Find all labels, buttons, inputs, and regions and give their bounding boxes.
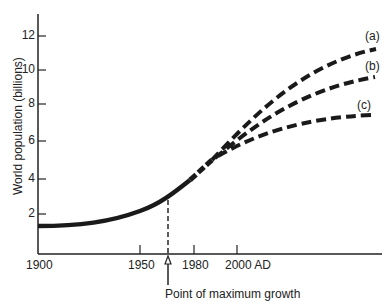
y-tick-6: 6 [15, 133, 35, 147]
y-tick-10: 10 [15, 62, 35, 76]
x-tick-1950: 1950 [128, 258, 155, 272]
y-ticks [38, 36, 46, 214]
y-tick-4: 4 [15, 171, 35, 185]
x-tick-1980: 1980 [182, 258, 209, 272]
y-tick-8: 8 [15, 96, 35, 110]
y-tick-12: 12 [15, 28, 35, 42]
x-ticks [140, 245, 237, 254]
arrow-head-icon [165, 256, 171, 264]
series-transition [190, 160, 212, 180]
series-historical [38, 180, 190, 226]
series-a-label: (a) [365, 29, 380, 43]
x-tick-1900: 1900 [26, 258, 53, 272]
series-c-label: (c) [357, 98, 371, 112]
x-tick-2000: 2000 AD [225, 258, 271, 272]
y-tick-2: 2 [15, 206, 35, 220]
annotation-label: Point of maximum growth [165, 287, 300, 301]
series-b-label: (b) [365, 59, 380, 73]
